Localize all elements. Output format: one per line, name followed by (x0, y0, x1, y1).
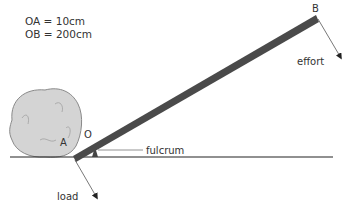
effort-arrow (318, 19, 341, 58)
label-b: B (312, 3, 319, 14)
rock (10, 89, 82, 157)
lever-diagram: B A O effort fulcrum load (0, 0, 350, 208)
lever-bar (73, 15, 319, 162)
label-o: O (84, 129, 92, 140)
label-effort: effort (297, 56, 324, 67)
label-fulcrum: fulcrum (146, 145, 184, 156)
label-a: A (60, 137, 67, 148)
label-load: load (57, 191, 78, 202)
